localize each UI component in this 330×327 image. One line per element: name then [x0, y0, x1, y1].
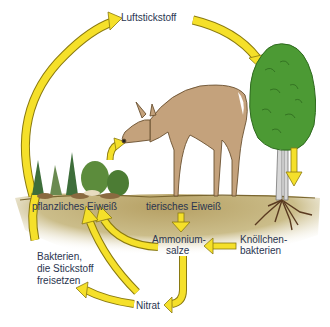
label-knoellchen-line1: Knöllchen-	[240, 234, 287, 245]
label-tierisches-eiweiss: tierisches Eiweiß	[146, 201, 221, 212]
label-luftstickstoff: Luftstickstoff	[121, 12, 176, 23]
label-bakterien-line1: Bakterien,	[37, 251, 82, 262]
label-nitrat: Nitrat	[136, 300, 160, 311]
label-knoellchen-line2: bakterien	[240, 245, 281, 256]
label-pflanzliches-eiweiss: pflanzliches Eiweiß	[32, 201, 117, 212]
deer-illustration	[122, 85, 247, 196]
nitrogen-cycle-diagram: Luftstickstoff pflanzliches Eiweiß tieri…	[0, 0, 330, 327]
label-bakterien-line3: freisetzen	[37, 275, 80, 286]
plants-illustration	[32, 152, 129, 199]
arrow-luftstickstoff-to-tree	[193, 20, 266, 70]
label-ammonium-line1: Ammonium-	[152, 234, 206, 245]
label-bakterien-line2: die Stickstoff	[37, 263, 94, 274]
label-ammonium-line2: salze	[166, 245, 189, 256]
arrow-ammonium-to-nitrat	[164, 256, 183, 313]
